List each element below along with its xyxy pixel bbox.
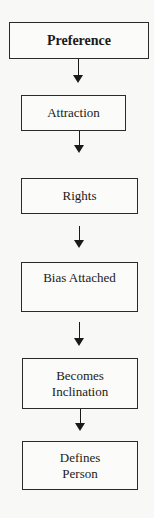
node-preference: Preference — [9, 22, 149, 59]
arrow-down-icon — [74, 131, 84, 153]
node-rights: Rights — [21, 178, 138, 214]
arrow-down-icon — [75, 409, 85, 431]
node-label: Rights — [63, 188, 97, 204]
arrow-down-icon — [74, 226, 84, 248]
arrow-down-icon — [74, 322, 84, 346]
node-label: Preference — [47, 33, 111, 49]
node-label: Attraction — [47, 105, 100, 121]
node-attraction: Attraction — [21, 95, 126, 131]
node-defines-person: Defines Person — [22, 441, 138, 490]
node-becomes-inclination: Becomes Inclination — [22, 358, 138, 409]
node-bias-attached: Bias Attached — [21, 262, 138, 312]
node-label-line1: Becomes — [56, 368, 104, 384]
node-label-line1: Defines — [60, 450, 100, 466]
node-label: Bias Attached — [43, 270, 116, 286]
arrow-down-icon — [73, 59, 83, 83]
node-label-line2: Person — [62, 466, 97, 482]
node-label-line2: Inclination — [52, 384, 108, 400]
